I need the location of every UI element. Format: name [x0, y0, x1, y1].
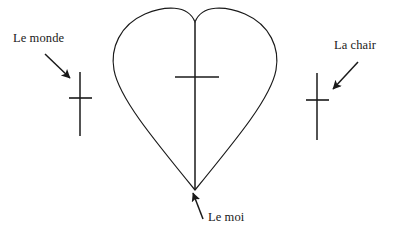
diagram-canvas: Le monde La chair Le moi [0, 0, 407, 244]
arrow-la-chair [333, 62, 358, 89]
left-cross [69, 72, 92, 136]
label-le-monde: Le monde [13, 31, 64, 45]
label-le-moi: Le moi [208, 210, 244, 224]
right-cross [306, 73, 329, 140]
arrow-le-moi [193, 193, 203, 219]
arrow-le-monde [45, 54, 70, 78]
center-cross [175, 22, 219, 190]
label-la-chair: La chair [334, 38, 376, 52]
